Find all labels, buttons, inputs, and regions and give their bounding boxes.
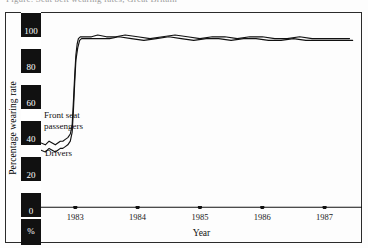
series-line-drivers bbox=[41, 37, 353, 152]
y-axis-tick-label: 60 bbox=[27, 99, 36, 108]
y-axis-tick-100: 100 bbox=[21, 13, 41, 37]
series-lines-svg bbox=[41, 12, 362, 208]
x-axis-title: Year bbox=[41, 228, 362, 238]
plot-area bbox=[41, 12, 362, 208]
y-axis-tick-80: 80 bbox=[21, 49, 41, 73]
x-axis-line-wrapper bbox=[41, 206, 362, 209]
y-axis-tick-label: 40 bbox=[27, 135, 36, 144]
x-axis-tick-marker-1983 bbox=[73, 206, 77, 209]
y-axis-title: Percentage wearing rate bbox=[8, 81, 18, 175]
y-axis-tick-0: 0 bbox=[21, 193, 41, 217]
y-axis-tick-40: 40 bbox=[21, 121, 41, 145]
x-axis-tick-label-1986: 1986 bbox=[254, 212, 271, 222]
annotation-front-seat-passengers: Front seat passengers bbox=[44, 110, 83, 131]
y-axis-tick-60: 60 bbox=[21, 85, 41, 109]
x-axis-tick-marker-1985 bbox=[198, 206, 202, 209]
y-axis-tick-label: 20 bbox=[27, 171, 36, 180]
y-axis-title-wrapper: Percentage wearing rate bbox=[5, 12, 21, 243]
y-axis-tick-label: 100 bbox=[24, 27, 38, 36]
x-axis-tick-labels: 19831984198519861987 bbox=[41, 212, 362, 226]
chart-figure: Figure: Seat belt wearing rates, Great B… bbox=[0, 0, 368, 248]
x-axis-tick-marker-1986 bbox=[260, 206, 264, 209]
x-axis-tick-label-1987: 1987 bbox=[316, 212, 333, 222]
x-axis-line-svg bbox=[41, 206, 362, 209]
x-axis-tick-marker-1984 bbox=[136, 206, 140, 209]
x-axis-tick-label-1984: 1984 bbox=[129, 212, 146, 222]
y-axis-tick-20: 20 bbox=[21, 157, 41, 181]
x-axis-tick-label-1985: 1985 bbox=[191, 212, 208, 222]
y-axis-unit-block: % bbox=[21, 219, 41, 245]
y-axis-tick-label: 80 bbox=[27, 63, 36, 72]
x-axis-tick-label-1983: 1983 bbox=[67, 212, 84, 222]
y-axis-unit-label: % bbox=[27, 227, 35, 236]
clipped-caption: Figure: Seat belt wearing rates, Great B… bbox=[6, 0, 346, 4]
x-axis-tick-marker-1987 bbox=[323, 206, 327, 209]
series-line-front-seat-passengers bbox=[41, 35, 350, 145]
annotation-drivers: Drivers bbox=[45, 148, 72, 159]
y-axis-tick-column: 100806040200% bbox=[21, 12, 41, 243]
y-axis-tick-label: 0 bbox=[29, 207, 34, 216]
